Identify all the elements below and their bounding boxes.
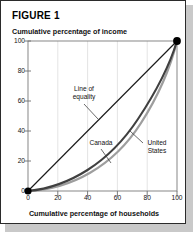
x-axis-title: Cumulative percentage of households <box>1 209 187 218</box>
top-right-marker <box>173 37 181 45</box>
annotation-canada-label: Canada <box>79 139 123 147</box>
x-tick-label: 0 <box>19 194 37 201</box>
line-of-equality-leader <box>84 104 98 119</box>
annotation-canada: Canada <box>79 139 123 147</box>
origin-marker <box>24 187 31 194</box>
annotation-line-of-equality: Line of equality <box>63 85 105 101</box>
x-axis-ticks <box>58 191 177 197</box>
plot-area <box>28 41 177 191</box>
y-tick-label: 0 <box>7 187 25 194</box>
annotation-line-of-equality-line2: equality <box>63 93 105 101</box>
annotation-line-of-equality-line1: Line of <box>63 85 105 93</box>
figure-card: FIGURE 1 Cumulative percentage of income… <box>0 0 186 224</box>
annotation-united-states-line2: States <box>137 147 177 155</box>
line-of-equality <box>28 41 177 191</box>
annotation-united-states-line1: United <box>137 139 177 147</box>
annotation-united-states: United States <box>137 139 177 155</box>
